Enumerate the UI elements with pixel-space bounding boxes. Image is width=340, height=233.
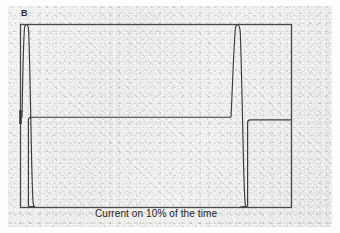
baseline-segment-2: [248, 120, 291, 207]
figure-panel-b: B Current on 10% of the time: [0, 0, 340, 233]
panel-label: B: [21, 9, 28, 18]
baseline-segment-1: [28, 117, 231, 206]
waveform-plot: [0, 0, 340, 233]
figure-caption: Current on 10% of the time: [20, 208, 292, 219]
waveform-trace: [21, 25, 35, 207]
pulse-2-trace: [231, 25, 247, 207]
plot-frame: [21, 25, 292, 208]
